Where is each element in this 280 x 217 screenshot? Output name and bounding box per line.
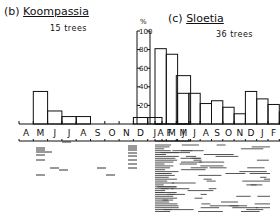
month-label: M bbox=[168, 128, 176, 138]
month-label: A bbox=[203, 128, 210, 138]
month-label: S bbox=[214, 128, 220, 138]
y-tick-label: 60 bbox=[139, 65, 148, 73]
month-label: J bbox=[181, 128, 185, 138]
bar bbox=[257, 99, 268, 124]
bar bbox=[268, 104, 279, 124]
month-label: O bbox=[108, 128, 115, 138]
month-label: D bbox=[137, 128, 144, 138]
y-tick-label: 80 bbox=[139, 46, 148, 54]
bar bbox=[178, 93, 189, 124]
month-label: A bbox=[23, 128, 30, 138]
bar bbox=[245, 91, 256, 124]
month-label: F bbox=[271, 128, 276, 138]
bar bbox=[33, 91, 47, 124]
month-label: N bbox=[236, 128, 243, 138]
bar bbox=[62, 117, 76, 124]
y-axis-unit: % bbox=[140, 18, 147, 26]
y-tick-label: 20 bbox=[139, 102, 148, 110]
month-label: O bbox=[225, 128, 232, 138]
month-label: J bbox=[153, 128, 157, 138]
bar bbox=[212, 101, 223, 124]
bar bbox=[133, 117, 147, 124]
month-label: J bbox=[67, 128, 71, 138]
phenology-chart: %20406080100AMJJASONDJFMAMJJASONDJFM bbox=[0, 0, 280, 217]
month-label: A bbox=[158, 128, 165, 138]
y-tick-label: 100 bbox=[139, 28, 152, 36]
bar bbox=[279, 112, 280, 124]
month-label: J bbox=[52, 128, 56, 138]
bar bbox=[200, 104, 211, 124]
month-label: N bbox=[123, 128, 130, 138]
bar bbox=[223, 107, 234, 124]
month-label: M bbox=[37, 128, 45, 138]
month-label: D bbox=[248, 128, 255, 138]
bar bbox=[234, 114, 245, 124]
y-tick-label: 40 bbox=[139, 83, 148, 91]
bar bbox=[48, 111, 62, 124]
month-label: S bbox=[95, 128, 101, 138]
bar bbox=[155, 49, 166, 124]
month-label: A bbox=[80, 128, 87, 138]
bar bbox=[76, 117, 90, 124]
month-label: J bbox=[260, 128, 264, 138]
month-label: J bbox=[192, 128, 196, 138]
